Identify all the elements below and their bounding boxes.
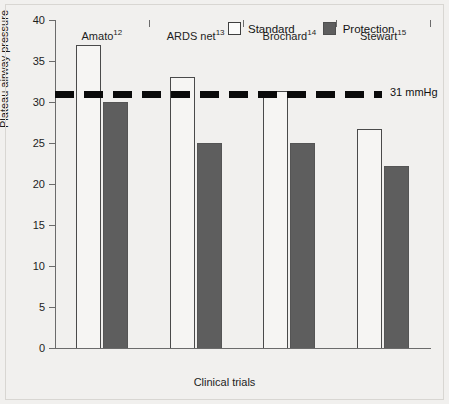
y-axis-tick-label: 25 bbox=[33, 135, 45, 151]
y-axis-tick-label: 40 bbox=[33, 12, 45, 28]
x-category-label-ards-net: ARDS net13 bbox=[167, 30, 225, 42]
open-square-swatch-icon bbox=[228, 22, 241, 35]
bar-protection-Brochard14[interactable] bbox=[290, 143, 315, 348]
x-axis-tick bbox=[149, 20, 150, 27]
y-axis-tick-label: 30 bbox=[33, 94, 45, 110]
bar-standard-Stewart15[interactable] bbox=[357, 129, 382, 348]
bar-protection-Amato12[interactable] bbox=[103, 102, 128, 348]
x-axis-tick bbox=[430, 20, 431, 27]
plot-area: 0510152025303540 Amato12ARDS net13Brocha… bbox=[55, 20, 430, 348]
y-axis-tick-label: 5 bbox=[39, 299, 45, 315]
y-axis-line bbox=[55, 20, 56, 349]
legend-label-protection: Protection bbox=[343, 23, 395, 35]
bar-standard-ARDS net13[interactable] bbox=[170, 77, 195, 348]
legend-item-protection[interactable]: Protection bbox=[323, 22, 395, 35]
y-axis-tick-label: 15 bbox=[33, 217, 45, 233]
x-axis-title: Clinical trials bbox=[0, 376, 449, 388]
legend-item-standard[interactable]: Standard bbox=[228, 22, 295, 35]
bar-standard-Brochard14[interactable] bbox=[263, 91, 288, 348]
y-axis-tick-label: 20 bbox=[33, 176, 45, 192]
bar-protection-Stewart15[interactable] bbox=[384, 166, 409, 348]
threshold-line-31-mmhg bbox=[55, 91, 382, 98]
filled-square-swatch-icon bbox=[323, 22, 336, 35]
chart-legend: Standard Protection bbox=[228, 22, 394, 35]
x-category-label-amato: Amato12 bbox=[82, 30, 123, 42]
bar-protection-ARDS net13[interactable] bbox=[197, 143, 222, 348]
legend-label-standard: Standard bbox=[248, 23, 295, 35]
threshold-line-label: 31 mmHg bbox=[390, 86, 438, 98]
x-axis-line bbox=[55, 348, 431, 349]
y-axis-tick-label: 0 bbox=[39, 340, 45, 356]
y-axis-tick-label: 35 bbox=[33, 53, 45, 69]
chart-figure: Standard Protection Plateau airway press… bbox=[0, 0, 449, 404]
y-axis-tick-label: 10 bbox=[33, 258, 45, 274]
y-axis-title: Plateau airway pressure bbox=[0, 10, 10, 128]
